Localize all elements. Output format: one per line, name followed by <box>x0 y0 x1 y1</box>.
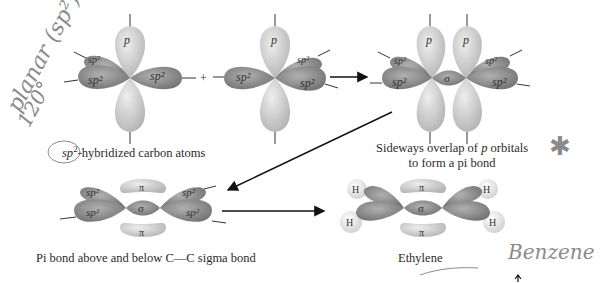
handwritten-star: ✱ <box>549 131 571 161</box>
svg-text:π: π <box>139 227 144 238</box>
svg-text:p: p <box>462 33 469 47</box>
svg-text:sp²: sp² <box>86 186 100 198</box>
svg-text:H: H <box>489 217 496 228</box>
svg-text:sp²: sp² <box>300 76 315 90</box>
svg-text:sp²: sp² <box>297 54 310 65</box>
caption-ethylene: Ethylene <box>398 251 442 266</box>
svg-text:π: π <box>139 182 144 193</box>
small-arrow-up-icon <box>515 275 521 282</box>
svg-text:sp²: sp² <box>186 206 200 218</box>
svg-text:σ: σ <box>418 202 424 214</box>
caption-sp2-hybridized: sp2-hybridized carbon atoms <box>62 144 205 161</box>
svg-text:H: H <box>483 184 490 195</box>
arrow-diagonal <box>228 112 392 190</box>
svg-text:H: H <box>352 184 359 195</box>
caption-sideways-overlap: Sideways overlap of p orbitals to form a… <box>372 141 532 171</box>
carbon-atom-1: p sp² sp² sp² <box>64 14 196 144</box>
svg-text:H: H <box>346 217 353 228</box>
handwritten-underline <box>420 268 478 275</box>
svg-text:sp²: sp² <box>182 186 196 198</box>
plus-sign: + <box>200 71 207 85</box>
caption-pi-bond: Pi bond above and below C—C sigma bond <box>36 251 256 266</box>
svg-text:sp²: sp² <box>88 54 101 65</box>
svg-text:sp²: sp² <box>394 55 407 66</box>
svg-text:p: p <box>123 33 130 47</box>
carbon-atom-2: p sp² sp² sp² <box>213 14 338 144</box>
svg-text:σ: σ <box>444 72 450 84</box>
svg-text:sp²: sp² <box>392 75 407 89</box>
svg-text:sp²: sp² <box>492 75 507 89</box>
svg-text:sp²: sp² <box>88 73 103 87</box>
handwritten-benzene: Benzene <box>508 240 595 264</box>
svg-text:sp²: sp² <box>236 70 251 84</box>
svg-text:sp²: sp² <box>150 69 165 83</box>
pi-bond-structure: sp² sp² sp² sp² π σ π <box>60 179 226 238</box>
svg-text:σ: σ <box>138 202 144 214</box>
svg-text:sp²: sp² <box>485 55 498 66</box>
svg-text:p: p <box>270 33 277 47</box>
svg-text:π: π <box>419 182 424 193</box>
svg-text:sp²: sp² <box>86 206 100 218</box>
svg-text:p: p <box>425 33 432 47</box>
overlapping-carbons: p p sp² sp² sp² sp² σ <box>370 14 530 144</box>
svg-text:π: π <box>419 227 424 238</box>
ethylene-molecule: H H H H π σ π <box>340 179 505 238</box>
